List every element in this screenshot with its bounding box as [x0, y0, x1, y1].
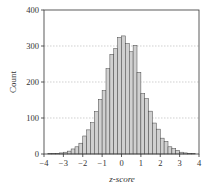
histogram-bar: [153, 123, 157, 154]
histogram-bar: [98, 99, 102, 154]
histogram-bar: [91, 123, 95, 154]
histogram-bar: [176, 150, 180, 154]
x-tick-label: 3: [178, 158, 182, 168]
histogram-bar: [133, 45, 137, 154]
histogram-bar: [83, 136, 87, 154]
histogram-bar: [75, 147, 79, 154]
histogram-bar: [164, 141, 168, 154]
histogram-bar: [94, 112, 98, 154]
histogram-bars: [48, 36, 195, 154]
histogram-bar: [156, 129, 160, 154]
y-tick-label: 400: [26, 5, 39, 15]
y-tick-label: 0: [35, 149, 39, 159]
y-tick-label: 200: [26, 77, 39, 87]
histogram-bar: [160, 138, 164, 154]
histogram-bar: [71, 149, 75, 154]
x-tick-label: −2: [78, 158, 87, 168]
histogram-bar: [79, 143, 83, 154]
histogram-bar: [149, 111, 153, 154]
histogram-bar: [125, 43, 129, 154]
x-tick-label: 4: [197, 158, 202, 168]
histogram-bar: [172, 149, 176, 154]
histogram-bar: [118, 37, 122, 154]
x-axis-label: z-score: [108, 174, 135, 184]
histogram-bar: [110, 54, 114, 154]
histogram-bar: [67, 151, 71, 154]
x-tick-label: 0: [119, 158, 123, 168]
x-tick-label: 2: [158, 158, 162, 168]
histogram-bar: [87, 130, 91, 154]
y-tick-label: 100: [26, 113, 39, 123]
x-tick-label: −4: [39, 158, 49, 168]
histogram-bar: [137, 72, 141, 154]
histogram-bar: [145, 99, 149, 154]
x-tick-label: −3: [59, 158, 68, 168]
histogram-bar: [168, 147, 172, 154]
x-tick-label: 1: [139, 158, 143, 168]
histogram-bar: [114, 49, 118, 154]
y-axis-label: Count: [8, 71, 18, 94]
histogram-bar: [106, 69, 110, 154]
y-tick-label: 300: [26, 41, 39, 51]
histogram-bar: [102, 91, 106, 154]
histogram-chart: 0100200300400−4−3−2−101234 z-score Count: [0, 0, 216, 189]
x-tick-label: −1: [98, 158, 107, 168]
histogram-bar: [141, 94, 145, 154]
histogram-bar: [122, 36, 126, 154]
histogram-bar: [129, 52, 133, 154]
